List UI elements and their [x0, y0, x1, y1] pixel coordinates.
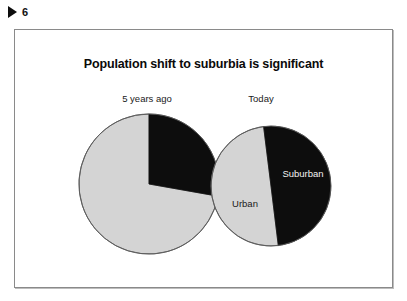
page-marker: 6: [8, 4, 28, 20]
pie-today: Suburban Urban: [211, 126, 331, 246]
slide-frame: Population shift to suburbia is signific…: [14, 29, 393, 288]
page-number: 6: [22, 7, 28, 18]
slice-label-urban: Urban: [232, 198, 258, 209]
slice-five-years-ago-suburban: [149, 114, 219, 196]
pie-chart-figure: 5 years ago Today: [15, 30, 394, 287]
pie-charts-svg: Suburban Urban: [15, 30, 394, 287]
play-triangle-icon: [8, 6, 17, 18]
pie-five-years-ago: [79, 114, 219, 254]
slice-label-suburban: Suburban: [282, 168, 323, 179]
slide-page: 6 Population shift to suburbia is signif…: [0, 0, 407, 301]
